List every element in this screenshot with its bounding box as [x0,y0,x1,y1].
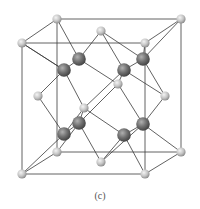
light-atom-corner-front-top-right [140,38,149,47]
bond [101,31,143,59]
bond [143,19,181,59]
dark-atom-tetra-5 [72,116,86,130]
light-atom-corner-back-top-right [176,14,185,23]
bond [84,70,124,108]
light-atom-corner-back-top-left [52,14,61,23]
light-atom-face-top [96,26,105,35]
bonds [22,19,181,174]
bond [124,70,165,96]
light-atom-face-left [33,91,42,100]
light-atom-corner-front-top-left [17,38,26,47]
cube-edge [22,19,57,43]
dark-atom-tetra-8 [117,128,131,142]
cube-edge [22,152,57,174]
dark-atom-tetra-7 [136,117,150,131]
crystal-unit-cell-diagram [0,0,200,185]
light-atom-face-back [113,79,122,88]
light-atom-corner-back-bottom-right [176,147,185,156]
dark-atom-tetra-3 [136,52,150,66]
dark-atom-tetra-6 [57,127,71,141]
bond [118,84,143,124]
bond [38,96,64,134]
cube-edge [145,152,181,174]
dark-atom-tetra-4 [117,63,131,77]
bond [57,19,79,59]
figure-caption: (c) [0,190,200,201]
light-atom-corner-front-bottom-right [140,169,149,178]
bond [22,43,64,70]
light-atom-face-front [79,103,88,112]
dark-atom-tetra-1 [72,52,86,66]
bond [79,59,118,84]
light-atom-corner-back-bottom-left [52,147,61,156]
bond [143,124,181,152]
light-atom-corner-front-bottom-left [17,169,26,178]
dark-atom-tetra-2 [57,63,71,77]
light-atom-face-bottom [96,157,105,166]
bond [84,108,124,135]
cube-edge [145,19,181,43]
light-atom-face-right [160,91,169,100]
